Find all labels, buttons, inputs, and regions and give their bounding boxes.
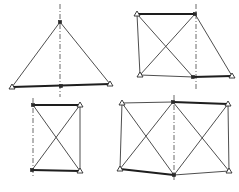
- bold-chord-member: [193, 76, 232, 77]
- joint-node-icon: [58, 20, 61, 23]
- bold-chord-member: [173, 102, 228, 104]
- truss-member: [122, 102, 173, 103]
- truss-member: [60, 22, 110, 84]
- truss-member: [137, 14, 193, 77]
- bold-chord-member: [32, 170, 80, 171]
- bold-chord-member: [120, 169, 174, 175]
- truss-member: [12, 22, 60, 87]
- double-x-braced-truss-panel: [117, 95, 232, 180]
- truss-member: [174, 171, 229, 175]
- triangle-truss-panel: [9, 4, 113, 97]
- joint-node-icon: [191, 75, 194, 78]
- joint-node-icon: [59, 84, 62, 87]
- truss-member: [120, 102, 173, 169]
- joint-node-icon: [171, 100, 174, 103]
- pin-support-icon: [119, 100, 125, 105]
- truss-member: [122, 103, 174, 175]
- x-braced-panel: [30, 98, 83, 178]
- truss-member: [120, 103, 122, 169]
- braced-trapezoid-truss-panel: [134, 4, 235, 90]
- truss-member: [137, 14, 140, 75]
- joint-node-icon: [30, 168, 33, 171]
- joint-node-icon: [193, 12, 196, 15]
- joint-node-icon: [172, 173, 175, 176]
- joint-node-icon: [31, 103, 34, 106]
- truss-member: [140, 75, 193, 77]
- truss-member: [195, 14, 232, 76]
- truss-diagrams: [0, 0, 239, 192]
- truss-member: [173, 102, 229, 171]
- truss-member: [140, 14, 195, 75]
- truss-member: [228, 104, 229, 171]
- truss-member: [174, 104, 228, 175]
